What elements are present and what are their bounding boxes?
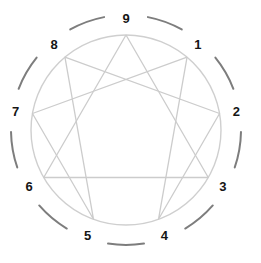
arc-3-4: [185, 205, 213, 228]
arc-1-2: [215, 58, 233, 89]
hexad-1-4-2-8-5-7: [32, 57, 219, 219]
node-4-label: 4: [161, 229, 168, 242]
inner-circle: [31, 35, 221, 225]
arc-6-7: [11, 132, 17, 167]
arc-5-6: [39, 205, 67, 228]
arc-9-1: [148, 17, 182, 29]
node-8-label: 8: [50, 38, 57, 51]
node-9-label: 9: [122, 12, 129, 25]
figure-lines-group: [32, 35, 219, 219]
node-5-label: 5: [84, 229, 91, 242]
node-7-label: 7: [12, 104, 19, 117]
outer-arc-ring: [11, 17, 241, 245]
node-3-label: 3: [219, 180, 226, 193]
node-2-label: 2: [233, 104, 240, 117]
triangle-9-3-6: [44, 35, 209, 178]
enneagram-diagram: 912345678: [0, 0, 261, 263]
arc-4-5: [108, 244, 144, 245]
arc-8-9: [70, 17, 104, 29]
arc-2-3: [235, 132, 241, 167]
arc-7-8: [19, 58, 37, 89]
node-6-label: 6: [25, 180, 32, 193]
node-1-label: 1: [194, 38, 201, 51]
enneagram-canvas: [0, 0, 261, 263]
inner-circle-group: [31, 35, 221, 225]
